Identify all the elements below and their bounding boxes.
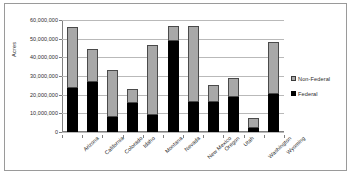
bar-segment-non-federal[interactable] [228, 78, 239, 98]
gridline [62, 132, 284, 133]
bar-segment-non-federal[interactable] [248, 118, 259, 129]
y-axis-tick-label: 50,000,000 [30, 36, 58, 42]
bar-segment-federal[interactable] [248, 128, 259, 132]
bar-segment-federal[interactable] [107, 117, 118, 132]
legend-label-non-federal: Non-Federal [298, 76, 330, 82]
bar-segment-non-federal[interactable] [188, 26, 199, 101]
gridline [62, 20, 284, 21]
chart-legend: Non-Federal Federal [291, 75, 351, 105]
y-axis-tick [59, 76, 62, 77]
bar-segment-non-federal[interactable] [107, 70, 118, 117]
bar-segment-federal[interactable] [147, 115, 158, 132]
y-axis-tick [59, 39, 62, 40]
y-axis-tick [59, 57, 62, 58]
bar-segment-federal[interactable] [188, 102, 199, 132]
bar-segment-federal[interactable] [127, 103, 138, 132]
y-axis-tick [59, 113, 62, 114]
bar-segment-non-federal[interactable] [268, 42, 279, 94]
y-axis-tick-label: 30,000,000 [30, 73, 58, 79]
y-axis-tick-label: 0 [55, 129, 58, 135]
legend-item-non-federal: Non-Federal [291, 75, 351, 82]
chart-container: Acres 60,000,00050,000,00040,000,00030,0… [4, 3, 347, 171]
bar-segment-non-federal[interactable] [67, 27, 78, 88]
bar-segment-federal[interactable] [208, 102, 219, 132]
non-federal-swatch-icon [291, 76, 296, 81]
legend-label-federal: Federal [298, 91, 318, 97]
bar-segment-non-federal[interactable] [127, 89, 138, 102]
y-axis-tick [59, 95, 62, 96]
federal-swatch-icon [291, 91, 296, 96]
y-axis-tick [59, 132, 62, 133]
y-axis-tick-label: 40,000,000 [30, 54, 58, 60]
y-axis: Acres 60,000,00050,000,00040,000,00030,0… [5, 4, 62, 139]
x-axis-labels: ArizonaCaliforniaColoradoIdahoMontanaNev… [62, 135, 297, 177]
y-axis-title: Acres [11, 42, 17, 57]
bar-segment-federal[interactable] [268, 94, 279, 132]
bar-segment-federal[interactable] [67, 88, 78, 132]
plot-area [62, 17, 284, 132]
bar-segment-federal[interactable] [228, 97, 239, 132]
bar-segment-non-federal[interactable] [168, 26, 179, 41]
bar-segment-federal[interactable] [168, 41, 179, 132]
bar-segment-non-federal[interactable] [87, 49, 98, 81]
x-axis-label: Idaho [141, 135, 155, 149]
legend-item-federal: Federal [291, 90, 351, 97]
x-axis-label: California [104, 135, 125, 156]
x-axis-label: Nevada [183, 135, 201, 152]
x-axis-label: Montana [164, 135, 184, 154]
bar-segment-non-federal[interactable] [147, 45, 158, 114]
x-axis-label: Arizona [82, 135, 100, 152]
bar-segment-non-federal[interactable] [208, 85, 219, 102]
y-axis-tick-label: 10,000,000 [30, 110, 58, 116]
y-axis-tick-label: 20,000,000 [30, 92, 58, 98]
y-axis-tick-label: 60,000,000 [30, 17, 58, 23]
y-axis-tick [59, 20, 62, 21]
x-axis-label: Utah [242, 135, 255, 147]
bar-segment-federal[interactable] [87, 82, 98, 132]
